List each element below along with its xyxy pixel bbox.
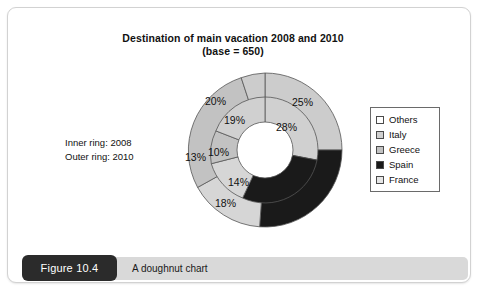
legend-item-greece[interactable]: Greece: [376, 142, 434, 157]
legend-swatch-greece: [376, 146, 384, 154]
legend-label-france: France: [389, 175, 419, 185]
screenshot-root: Destination of main vacation 2008 and 20…: [0, 0, 484, 293]
chart-title-main: Destination of main vacation 2008 and 20…: [122, 32, 343, 44]
figure-caption-text: A doughnut chart: [132, 257, 208, 280]
figure-card: Destination of main vacation 2008 and 20…: [7, 7, 471, 283]
legend-item-france[interactable]: France: [376, 172, 434, 187]
legend-label-others: Others: [389, 115, 418, 125]
chart-legend: Others Italy Greece Spain France: [370, 107, 440, 192]
legend-item-italy[interactable]: Italy: [376, 127, 434, 142]
chart-title-subtitle: (base = 650): [68, 45, 398, 58]
inner-ring-note: Inner ring: 2008: [65, 136, 134, 150]
outer-label-others: 25%: [292, 96, 313, 108]
inner-label-italy: 19%: [224, 114, 245, 126]
doughnut-chart: 25% 18% 13% 20% 28% 14% 10% 19%: [184, 69, 346, 231]
legend-label-italy: Italy: [389, 130, 406, 140]
legend-item-spain[interactable]: Spain: [376, 157, 434, 172]
inner-label-others: 28%: [276, 121, 297, 133]
inner-label-france: 14%: [228, 176, 249, 188]
figure-number-tag: Figure 10.4: [22, 255, 117, 281]
legend-label-spain: Spain: [389, 160, 413, 170]
legend-swatch-france: [376, 176, 384, 184]
ring-legend-note: Inner ring: 2008 Outer ring: 2010: [65, 136, 134, 164]
outer-label-france: 18%: [215, 197, 236, 209]
chart-title: Destination of main vacation 2008 and 20…: [68, 32, 398, 58]
outer-label-italy: 20%: [205, 95, 226, 107]
inner-label-greece: 10%: [208, 146, 229, 158]
outer-label-greece: 13%: [185, 151, 206, 163]
legend-swatch-italy: [376, 131, 384, 139]
outer-ring-note: Outer ring: 2010: [65, 150, 134, 164]
legend-item-others[interactable]: Others: [376, 112, 434, 127]
legend-swatch-spain: [376, 161, 384, 169]
legend-swatch-others: [376, 116, 384, 124]
legend-label-greece: Greece: [389, 145, 420, 155]
